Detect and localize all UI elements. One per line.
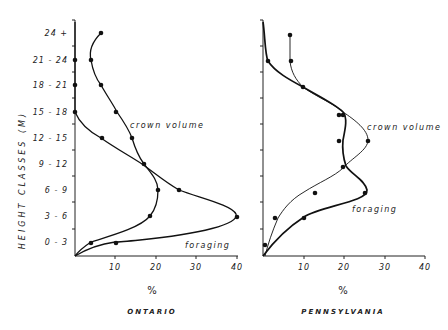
ontario-foraging-label: foraging [185,241,230,250]
pennsylvania-crown-volume-label: crown volume [367,123,441,132]
ontario-x-axis-label: % [147,285,157,296]
pennsylvania-foraging-label: foraging [352,205,397,214]
x-tick: 20 [150,263,162,272]
ontario-crown-volume-points [89,31,161,246]
x-tick: 40 [419,263,431,272]
pennsylvania-foraging-points [266,59,368,221]
pennsylvania-crown-volume-line [265,35,368,256]
y-tick: 12 - 15 [33,134,68,143]
ontario-crown-volume-line [75,33,158,256]
pennsylvania-x-tick-labels: 10 20 30 40 [298,263,431,272]
x-tick: 40 [231,263,243,272]
y-tick: 0 - 3 [45,238,68,247]
pennsylvania-foraging-line [263,22,367,256]
y-tick: 18 - 21 [33,81,68,90]
chart-canvas: HEIGHT CLASSES (M) 24 + 21 - 24 18 - 21 … [0,0,448,330]
ontario-crown-volume-label: crown volume [130,121,204,130]
x-tick: 30 [379,263,391,272]
y-tick: 15 - 18 [33,108,68,117]
pennsylvania-title: PENNSYLVANIA [301,308,384,316]
y-tick: 21 - 24 [33,56,68,65]
y-tick-labels: 24 + 21 - 24 18 - 21 15 - 18 12 - 15 9 -… [33,29,68,247]
pennsylvania-x-axis-label: % [338,285,348,296]
x-tick: 30 [190,263,202,272]
y-tick: 3 - 6 [45,212,68,221]
ontario-title: ONTARIO [127,308,176,316]
x-tick: 20 [338,263,350,272]
x-tick: 10 [109,263,121,272]
y-tick: 24 + [45,29,68,38]
ontario-foraging-line [75,22,236,256]
y-axis-label: HEIGHT CLASSES (M) [18,111,27,249]
ontario-axes [72,20,238,259]
y-tick: 6 - 9 [45,186,68,195]
y-tick: 9 - 12 [39,160,68,169]
ontario-x-tick-labels: 10 20 30 40 [109,263,243,272]
ontario-foraging-points [73,58,240,246]
pennsylvania-crown-volume-points [263,33,371,248]
x-tick: 10 [298,263,310,272]
